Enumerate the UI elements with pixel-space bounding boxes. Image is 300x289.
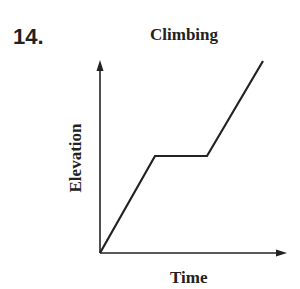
x-axis-arrow-icon <box>276 250 287 257</box>
y-axis-arrow-icon <box>97 60 104 71</box>
x-axis <box>100 250 287 257</box>
chart-plot <box>0 0 300 289</box>
y-axis <box>97 60 104 253</box>
elevation-line <box>100 61 263 253</box>
